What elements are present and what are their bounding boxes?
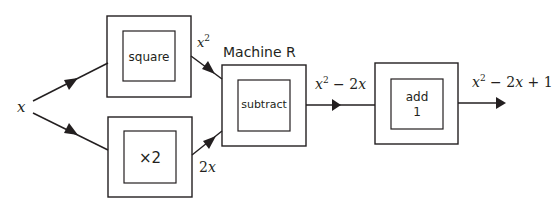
arrow-icon (203, 136, 216, 149)
arrow-icon (332, 99, 341, 111)
square-output-label: x2 (197, 33, 210, 50)
arrow-icon (496, 97, 506, 109)
machine-square-label: square (129, 50, 170, 64)
arrow-icon (64, 78, 78, 90)
machine-add1: add 1 (375, 63, 458, 144)
machine-times2: ×2 (108, 117, 192, 197)
machine-subtract: Machine R subtract (222, 44, 306, 146)
input-x-label: x (17, 98, 26, 116)
machine-add1-label-line2: 1 (413, 105, 421, 119)
machine-r-title: Machine R (223, 44, 296, 60)
machine-add1-label-line1: add (406, 90, 429, 104)
arrow-icon (202, 61, 215, 74)
machine-subtract-label: subtract (241, 98, 287, 111)
function-machine-diagram: x square ×2 x2 2x Machine R subtract x2 … (0, 0, 559, 204)
subtract-output-label: x2 − 2x (315, 75, 366, 92)
machine-add1-inner (391, 79, 443, 129)
final-output-label: x2 − 2x + 1 (472, 73, 553, 90)
times2-output-label: 2x (199, 159, 216, 175)
arrow-icon (64, 123, 78, 135)
machine-square: square (107, 16, 191, 97)
machine-times2-label: ×2 (139, 149, 161, 167)
